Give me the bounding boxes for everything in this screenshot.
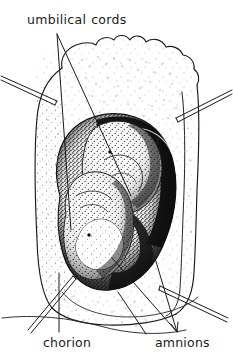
label-chorion: chorion — [43, 337, 91, 350]
label-umbilical-cords-word-1: umbilical — [27, 12, 86, 27]
fetus-lower-eye — [87, 233, 90, 236]
label-umbilical-cords: umbilicalcords — [27, 14, 127, 27]
anatomical-illustration — [0, 0, 233, 364]
figure-root: umbilicalcords chorion amnions — [0, 0, 233, 364]
label-umbilical-cords-word-2: cords — [91, 12, 126, 27]
label-amnions: amnions — [155, 337, 210, 350]
